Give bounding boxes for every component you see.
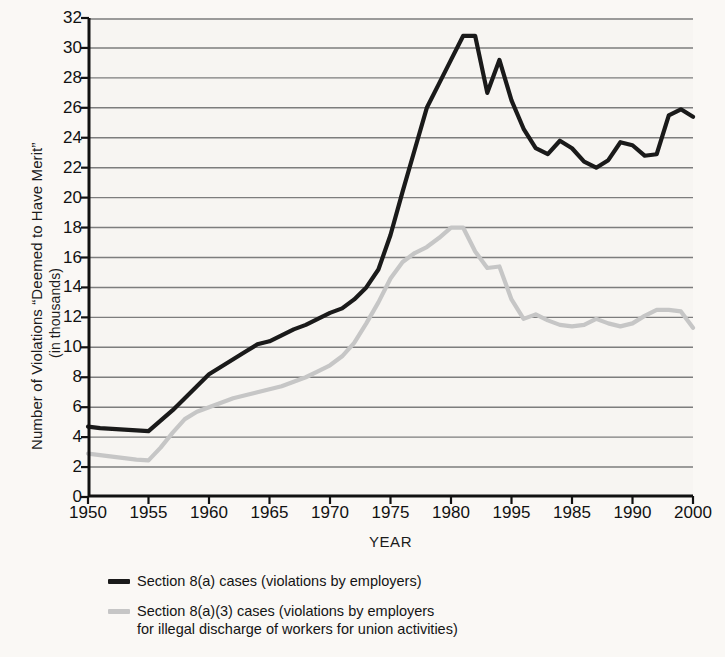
legend-item: Section 8(a)(3) cases (violations by emp… — [108, 602, 668, 638]
x-axis-tick-label: 1950 — [69, 503, 107, 523]
x-axis-tick-label: 1955 — [130, 503, 168, 523]
legend-line-swatch-icon — [108, 609, 130, 614]
legend-label-line1: Section 8(a) cases (violations by employ… — [137, 573, 421, 589]
legend-item: Section 8(a) cases (violations by employ… — [108, 572, 668, 590]
y-axis-tick-label: 22 — [46, 158, 82, 178]
y-axis-tick-label: 16 — [46, 248, 82, 268]
y-axis-tick-label: 24 — [46, 128, 82, 148]
series-line — [88, 36, 693, 431]
y-axis-tick-label: 18 — [46, 218, 82, 238]
chart-figure: Number of Violations “Deemed to Have Mer… — [0, 0, 725, 657]
x-axis-tick-label: 1985 — [553, 503, 591, 523]
plot-area — [88, 18, 693, 497]
y-axis-tick-labels: 02468101214161820222426283032 — [40, 18, 82, 497]
y-axis-tick-label: 30 — [46, 38, 82, 58]
legend-label: Section 8(a)(3) cases (violations by emp… — [137, 602, 458, 638]
y-axis-tick-label: 20 — [46, 188, 82, 208]
y-axis-tick-label: 12 — [46, 307, 82, 327]
y-axis-tick-label: 14 — [46, 277, 82, 297]
y-axis-tick-label: 6 — [46, 397, 82, 417]
y-axis-tick-label: 4 — [46, 427, 82, 447]
legend-label-line1: Section 8(a)(3) cases (violations by emp… — [137, 603, 434, 619]
x-axis-tick-label: 1995 — [493, 503, 531, 523]
x-axis-title: YEAR — [88, 533, 693, 550]
series-line — [88, 228, 693, 461]
y-axis-tick-label: 32 — [46, 8, 82, 28]
legend-label-line2: for illegal discharge of workers for uni… — [137, 620, 458, 638]
x-axis-tick-label: 1965 — [251, 503, 289, 523]
x-axis-tick-label: 1960 — [190, 503, 228, 523]
legend-line-swatch-icon — [108, 579, 130, 584]
x-axis-tick-label: 2000 — [674, 503, 712, 523]
x-axis-tick-labels: 1950195519601965197019751980199519851990… — [88, 503, 693, 529]
x-axis-tick-label: 1990 — [614, 503, 652, 523]
y-axis-tick-label: 26 — [46, 98, 82, 118]
legend-label: Section 8(a) cases (violations by employ… — [137, 572, 421, 590]
x-axis-tick-label: 1980 — [432, 503, 470, 523]
chart-legend: Section 8(a) cases (violations by employ… — [108, 572, 668, 650]
x-axis-tick-label: 1975 — [372, 503, 410, 523]
y-axis-tick-label: 28 — [46, 68, 82, 88]
chart-lines — [88, 18, 693, 497]
y-axis-tick-label: 8 — [46, 367, 82, 387]
y-axis-tick-label: 2 — [46, 457, 82, 477]
x-axis-tick-label: 1970 — [311, 503, 349, 523]
y-axis-tick-label: 10 — [46, 337, 82, 357]
